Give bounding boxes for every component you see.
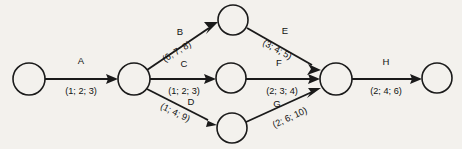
edge-label-estimate-h: (2; 4; 6)	[370, 86, 402, 96]
edge-label-estimate-a: (1; 2; 3)	[65, 86, 97, 96]
edge-label-activity-b: B	[177, 26, 183, 37]
edge-label-activity-h: H	[383, 56, 390, 67]
edge-label-estimate-b: (6; 7; 8)	[161, 39, 193, 64]
edge-label-activity-c: C	[181, 58, 188, 69]
nodes-group	[13, 5, 452, 143]
node-n7[interactable]	[422, 63, 452, 93]
node-n5[interactable]	[217, 113, 247, 143]
arrow-head-d	[204, 119, 217, 127]
node-n2[interactable]	[118, 63, 150, 95]
node-n6[interactable]	[320, 63, 352, 95]
edge-label-estimate-c: (1; 2; 3)	[168, 86, 200, 96]
edge-label-estimate-f: (2; 3; 4)	[266, 86, 298, 96]
network-diagram-canvas: A (1; 2; 3) B (6; 7; 8) C (1; 2; 3) D (1…	[0, 0, 462, 149]
edge-label-activity-e: E	[282, 25, 288, 36]
edge-label-activity-d: D	[188, 96, 195, 107]
edge-label-activity-a: A	[78, 55, 85, 66]
edge-label-activity-g: G	[273, 98, 280, 109]
node-n3[interactable]	[218, 5, 248, 35]
edge-label-activity-f: F	[276, 57, 282, 68]
node-n1[interactable]	[13, 63, 45, 95]
node-n4[interactable]	[216, 63, 246, 93]
arrow-head-e	[307, 64, 321, 75]
arrow-head-b	[204, 22, 218, 34]
network-diagram: A (1; 2; 3) B (6; 7; 8) C (1; 2; 3) D (1…	[0, 0, 462, 149]
